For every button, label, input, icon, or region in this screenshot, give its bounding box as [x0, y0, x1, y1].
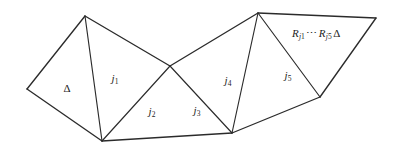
edge-BD	[85, 16, 170, 66]
edge-label-j2: j2	[149, 106, 156, 117]
edge-label-j1: j1	[112, 73, 119, 84]
edge-BC	[85, 16, 102, 141]
edge-label-j5: j5	[285, 70, 292, 81]
edge-label-j4: j4	[225, 75, 232, 86]
triangulation-diagram	[0, 0, 393, 154]
edge-CE	[102, 133, 232, 141]
edge-AC	[27, 89, 102, 141]
edge-label-j5-subscript: 5	[288, 74, 292, 83]
edge-EG	[232, 97, 320, 133]
edge-DF	[170, 13, 258, 66]
edge-label-j3-subscript: 3	[197, 109, 201, 118]
edge-AB	[27, 16, 85, 89]
expression-ellipsis: ⋯	[305, 27, 319, 39]
figure-container: Δ j1 j2 j3 j4 j5 Rj1⋯Rj5Δ	[0, 0, 393, 154]
expression-r2-base: R	[319, 27, 326, 39]
edge-label-j1-subscript: 1	[115, 77, 119, 86]
triangle-label-r-expression: Rj1⋯Rj5Δ	[292, 28, 342, 39]
edge-FH	[258, 13, 376, 18]
expression-r1-subscript-index: 1	[301, 32, 305, 41]
edge-label-j2-subscript: 2	[152, 110, 156, 119]
expression-r2-subscript-index: 5	[328, 32, 332, 41]
expression-delta: Δ	[332, 27, 342, 39]
edge-DE	[170, 66, 232, 133]
edge-EF	[232, 13, 258, 133]
triangle-label-delta: Δ	[63, 83, 70, 94]
edge-label-j3: j3	[194, 105, 201, 116]
expression-r1-base: R	[292, 27, 299, 39]
edge-label-j4-subscript: 4	[228, 79, 232, 88]
